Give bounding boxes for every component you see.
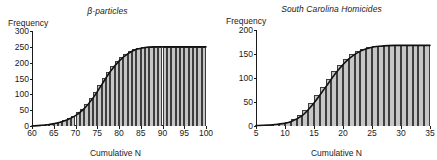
- x-tick-mark: [141, 126, 142, 129]
- y-tick-label: 50: [20, 106, 29, 115]
- x-tick-mark: [76, 126, 77, 129]
- x-tick-label: 20: [338, 129, 347, 138]
- y-tick-mark: [30, 47, 33, 48]
- y-tick-label: 200: [239, 26, 253, 35]
- y-tick-mark: [254, 30, 257, 31]
- x-tick-label: 70: [71, 129, 80, 138]
- x-tick-label: 35: [425, 129, 434, 138]
- x-tick-label: 25: [367, 129, 376, 138]
- x-tick-label: 65: [49, 129, 58, 138]
- y-tick-mark: [30, 31, 33, 32]
- x-tick-mark: [32, 126, 33, 129]
- x-tick-label: 80: [114, 129, 123, 138]
- x-tick-mark: [285, 126, 286, 129]
- x-tick-label: 95: [180, 129, 189, 138]
- x-tick-label: 60: [27, 129, 36, 138]
- chart-panel-beta-particles: β-particles Frequency 050100150200250300…: [0, 0, 215, 160]
- x-tick-mark: [206, 126, 207, 129]
- bar: [424, 45, 430, 126]
- x-tick-label: 90: [158, 129, 167, 138]
- x-tick-mark: [430, 126, 431, 129]
- x-tick-label: 15: [309, 129, 318, 138]
- x-tick-mark: [54, 126, 55, 129]
- x-tick-label: 100: [199, 129, 213, 138]
- bars-group: [256, 30, 430, 126]
- x-tick-mark: [372, 126, 373, 129]
- y-tick-label: 0: [248, 122, 253, 131]
- figure-two-cumulative-frequency-charts: β-particles Frequency 050100150200250300…: [0, 0, 437, 160]
- x-axis-label: Cumulative N: [24, 148, 207, 158]
- x-tick-mark: [184, 126, 185, 129]
- x-tick-mark: [163, 126, 164, 129]
- y-tick-mark: [254, 78, 257, 79]
- y-tick-mark: [30, 94, 33, 95]
- bars-group: [32, 31, 206, 126]
- x-tick-label: 10: [280, 129, 289, 138]
- x-tick-mark: [119, 126, 120, 129]
- y-tick-mark: [30, 79, 33, 80]
- x-tick-mark: [256, 126, 257, 129]
- y-tick-label: 50: [244, 98, 253, 107]
- y-tick-label: 250: [15, 43, 29, 52]
- x-axis-label: Cumulative N: [240, 148, 433, 158]
- y-tick-label: 100: [239, 74, 253, 83]
- y-tick-label: 200: [15, 58, 29, 67]
- y-tick-label: 300: [15, 27, 29, 36]
- y-tick-mark: [254, 102, 257, 103]
- x-tick-label: 5: [254, 129, 259, 138]
- plot-area: 0501001502002503006065707580859095100: [32, 31, 206, 126]
- x-tick-mark: [314, 126, 315, 129]
- chart-panel-south-carolina-homicides: South Carolina Homicides Frequency 05010…: [222, 0, 437, 160]
- x-tick-mark: [401, 126, 402, 129]
- y-tick-label: 150: [239, 50, 253, 59]
- y-tick-label: 100: [15, 90, 29, 99]
- chart-title: South Carolina Homicides: [232, 4, 431, 14]
- x-tick-mark: [343, 126, 344, 129]
- y-tick-label: 150: [15, 74, 29, 83]
- plot-area: 0501001502005101520253035: [256, 30, 430, 126]
- y-tick-mark: [30, 110, 33, 111]
- y-tick-mark: [30, 63, 33, 64]
- x-tick-mark: [97, 126, 98, 129]
- x-tick-label: 85: [136, 129, 145, 138]
- bar: [202, 47, 206, 126]
- x-tick-label: 75: [93, 129, 102, 138]
- y-tick-mark: [254, 54, 257, 55]
- chart-title: β-particles: [18, 6, 197, 16]
- x-tick-label: 30: [396, 129, 405, 138]
